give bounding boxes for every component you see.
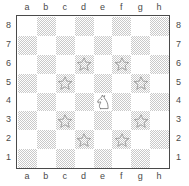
board-square-g5[interactable] (131, 74, 150, 93)
rank-label-7-left: 7 (3, 40, 14, 50)
board-square-a4[interactable] (18, 93, 37, 112)
board-square-d1[interactable] (75, 149, 94, 168)
board-square-b2[interactable] (37, 130, 56, 149)
board-square-d6[interactable] (75, 55, 94, 74)
board-square-f2[interactable] (112, 130, 131, 149)
rank-label-5-left: 5 (3, 78, 14, 88)
file-label-f-bottom: f (112, 172, 131, 182)
rank-label-2-left: 2 (3, 134, 14, 144)
rank-label-1-right: 1 (173, 153, 184, 163)
board-square-h2[interactable] (150, 130, 169, 149)
board-square-h7[interactable] (150, 36, 169, 55)
board-square-e6[interactable] (94, 55, 113, 74)
board-square-d3[interactable] (75, 111, 94, 130)
rank-label-4-right: 4 (173, 96, 184, 106)
board-square-g7[interactable] (131, 36, 150, 55)
star-icon (77, 57, 92, 72)
board-square-g2[interactable] (131, 130, 150, 149)
board-square-a2[interactable] (18, 130, 37, 149)
file-label-c-top: c (55, 3, 74, 13)
rank-label-6-right: 6 (173, 59, 184, 69)
board-square-c2[interactable] (56, 130, 75, 149)
board-square-f3[interactable] (112, 111, 131, 130)
rank-label-2-right: 2 (173, 134, 184, 144)
board-square-g4[interactable] (131, 93, 150, 112)
board-square-b6[interactable] (37, 55, 56, 74)
knight-icon[interactable] (94, 93, 111, 110)
board-square-f7[interactable] (112, 36, 131, 55)
board-square-e5[interactable] (94, 74, 113, 93)
file-label-h-bottom: h (150, 172, 169, 182)
rank-label-3-right: 3 (173, 115, 184, 125)
file-label-g-bottom: g (131, 172, 150, 182)
star-icon (77, 132, 92, 147)
file-label-g-top: g (131, 3, 150, 13)
board-square-e8[interactable] (94, 17, 113, 36)
rank-label-3-left: 3 (3, 115, 14, 125)
file-label-e-bottom: e (93, 172, 112, 182)
board-square-b8[interactable] (37, 17, 56, 36)
board-square-d7[interactable] (75, 36, 94, 55)
board-square-g1[interactable] (131, 149, 150, 168)
star-icon (58, 76, 73, 91)
file-label-b-top: b (36, 3, 55, 13)
board-frame (16, 15, 170, 169)
chess-board-diagram: abcdefgh abcdefgh 87654321 87654321 (0, 0, 189, 186)
board-square-a3[interactable] (18, 111, 37, 130)
rank-label-4-left: 4 (3, 96, 14, 106)
board-square-e1[interactable] (94, 149, 113, 168)
star-icon (114, 57, 129, 72)
rank-label-7-right: 7 (173, 40, 184, 50)
board-square-e3[interactable] (94, 111, 113, 130)
file-label-d-bottom: d (74, 172, 93, 182)
star-icon (58, 113, 73, 128)
board-square-h4[interactable] (150, 93, 169, 112)
board-square-c7[interactable] (56, 36, 75, 55)
board-square-g6[interactable] (131, 55, 150, 74)
board-square-g3[interactable] (131, 111, 150, 130)
board-square-f6[interactable] (112, 55, 131, 74)
board-square-d5[interactable] (75, 74, 94, 93)
board-square-f5[interactable] (112, 74, 131, 93)
board-square-f1[interactable] (112, 149, 131, 168)
star-icon (133, 76, 148, 91)
board-square-b4[interactable] (37, 93, 56, 112)
board-square-a7[interactable] (18, 36, 37, 55)
board-square-c6[interactable] (56, 55, 75, 74)
board-square-h3[interactable] (150, 111, 169, 130)
rank-label-6-left: 6 (3, 59, 14, 69)
board-square-b7[interactable] (37, 36, 56, 55)
rank-label-8-left: 8 (3, 21, 14, 31)
board-square-c5[interactable] (56, 74, 75, 93)
board-square-e7[interactable] (94, 36, 113, 55)
board-square-f4[interactable] (112, 93, 131, 112)
board-square-d2[interactable] (75, 130, 94, 149)
board-square-a6[interactable] (18, 55, 37, 74)
board-square-d8[interactable] (75, 17, 94, 36)
board-square-e2[interactable] (94, 130, 113, 149)
rank-label-1-left: 1 (3, 153, 14, 163)
board-square-c1[interactable] (56, 149, 75, 168)
board-square-d4[interactable] (75, 93, 94, 112)
board-grid (18, 17, 169, 168)
file-label-a-bottom: a (17, 172, 36, 182)
file-label-c-bottom: c (55, 172, 74, 182)
board-square-e4[interactable] (94, 93, 113, 112)
board-square-f8[interactable] (112, 17, 131, 36)
board-square-a5[interactable] (18, 74, 37, 93)
board-square-b1[interactable] (37, 149, 56, 168)
board-square-h1[interactable] (150, 149, 169, 168)
board-square-h5[interactable] (150, 74, 169, 93)
board-square-c3[interactable] (56, 111, 75, 130)
board-square-c8[interactable] (56, 17, 75, 36)
board-square-h6[interactable] (150, 55, 169, 74)
file-label-d-top: d (74, 3, 93, 13)
board-square-b3[interactable] (37, 111, 56, 130)
file-label-b-bottom: b (36, 172, 55, 182)
board-square-c4[interactable] (56, 93, 75, 112)
board-square-h8[interactable] (150, 17, 169, 36)
board-square-g8[interactable] (131, 17, 150, 36)
board-square-b5[interactable] (37, 74, 56, 93)
board-square-a8[interactable] (18, 17, 37, 36)
board-square-a1[interactable] (18, 149, 37, 168)
